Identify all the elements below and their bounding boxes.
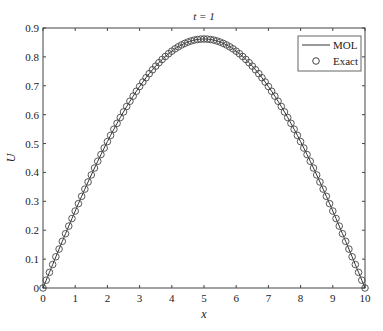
x-axis-label: x xyxy=(200,307,207,321)
x-tick-label: 6 xyxy=(233,292,239,304)
y-tick-label: 0 xyxy=(34,282,40,294)
y-tick-label: 0.5 xyxy=(25,138,39,150)
y-tick-label: 0.7 xyxy=(25,80,39,92)
chart-title: t = 1 xyxy=(193,10,214,22)
x-tick-label: 8 xyxy=(298,292,304,304)
y-tick-label: 0.8 xyxy=(25,51,39,63)
y-axis-label: U xyxy=(4,152,18,162)
mol-line xyxy=(43,39,365,288)
y-tick-label: 0.9 xyxy=(25,22,39,34)
y-tick-label: 0.1 xyxy=(25,253,39,265)
x-tick-label: 7 xyxy=(266,292,272,304)
x-tick-label: 3 xyxy=(137,292,143,304)
x-tick-label: 2 xyxy=(105,292,111,304)
legend-label-exact: Exact xyxy=(333,55,358,67)
x-tick-label: 0 xyxy=(40,292,46,304)
y-tick-label: 0.3 xyxy=(25,195,39,207)
chart: 01234567891000.10.20.30.40.50.60.70.80.9… xyxy=(0,0,383,331)
x-tick-label: 4 xyxy=(169,292,175,304)
y-tick-label: 0.4 xyxy=(25,166,39,178)
x-tick-label: 5 xyxy=(201,292,207,304)
legend-label-mol: MOL xyxy=(333,39,358,51)
x-tick-label: 10 xyxy=(360,292,372,304)
y-tick-label: 0.6 xyxy=(25,109,39,121)
x-tick-label: 1 xyxy=(72,292,78,304)
x-tick-label: 9 xyxy=(330,292,336,304)
y-tick-label: 0.2 xyxy=(25,224,39,236)
